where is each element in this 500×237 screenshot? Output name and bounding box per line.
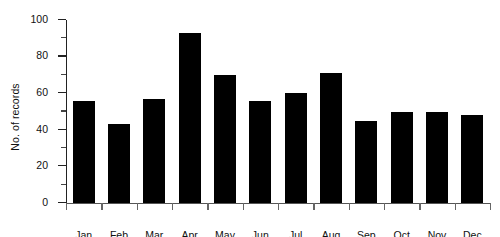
x-axis-tick <box>419 203 420 210</box>
top-cutoff-text-artifact: · · · · · · <box>0 0 500 7</box>
x-axis-tick <box>278 203 279 210</box>
x-axis-tick <box>384 203 385 210</box>
x-axis-tick-label: Jul <box>289 229 302 237</box>
bar <box>73 101 95 203</box>
y-axis-tick-label: 60 <box>36 86 48 98</box>
y-axis-tick-major: 20 <box>58 165 66 166</box>
y-axis-tick-major: 40 <box>58 129 66 130</box>
x-axis-tick <box>172 203 173 210</box>
x-axis-tick-label: Mar <box>145 229 163 237</box>
x-axis-tick <box>101 203 102 210</box>
bar <box>426 112 448 204</box>
x-axis-tick <box>313 203 314 210</box>
top-cutoff-text: · · · · · · <box>96 0 140 3</box>
plot-area: 020406080100JanFebMarAprMayJunJulAugSepO… <box>66 20 490 203</box>
x-axis-tick-label: Feb <box>110 229 128 237</box>
y-axis-tick-label: 80 <box>36 49 48 61</box>
y-axis-tick-label: 40 <box>36 123 48 135</box>
x-axis-tick <box>455 203 456 210</box>
y-axis-tick-minor <box>61 74 66 75</box>
y-axis-title: No. of records <box>9 62 25 172</box>
bar <box>143 99 165 203</box>
bar <box>214 75 236 203</box>
bar <box>461 115 483 203</box>
x-axis-tick-label: Oct <box>393 229 409 237</box>
x-axis-tick-label: Jun <box>252 229 269 237</box>
x-axis-tick <box>490 203 491 210</box>
x-axis-tick-label: Sep <box>357 229 376 237</box>
x-axis-tick-label: May <box>215 229 235 237</box>
y-axis-tick-label: 100 <box>30 13 48 25</box>
y-axis-tick-minor <box>61 184 66 185</box>
x-axis-tick <box>66 203 67 210</box>
x-axis-tick-label: Nov <box>428 229 447 237</box>
bar <box>108 124 130 203</box>
bar <box>179 33 201 203</box>
x-axis-tick <box>207 203 208 210</box>
y-axis-tick-major: 100 <box>58 19 66 20</box>
x-axis-tick-label: Apr <box>181 229 197 237</box>
bar-chart-figure: · · · · · · No. of records 020406080100J… <box>0 0 500 237</box>
y-axis-tick-minor <box>61 110 66 111</box>
x-axis-tick <box>243 203 244 210</box>
y-axis-tick-label: 20 <box>36 159 48 171</box>
y-axis-tick-minor <box>61 37 66 38</box>
bar <box>285 93 307 203</box>
x-axis-tick <box>349 203 350 210</box>
x-axis-tick-label: Jan <box>75 229 92 237</box>
x-axis-tick-label: Dec <box>463 229 482 237</box>
y-axis-tick-major: 80 <box>58 55 66 56</box>
bar <box>391 112 413 204</box>
y-axis-tick-major: 60 <box>58 92 66 93</box>
y-axis-tick-label: 0 <box>42 196 48 208</box>
bar <box>320 73 342 203</box>
x-axis-tick-label: Aug <box>322 229 341 237</box>
y-axis-tick-minor <box>61 147 66 148</box>
bar <box>249 101 271 203</box>
y-axis-tick-major: 0 <box>58 202 66 203</box>
x-axis-tick <box>137 203 138 210</box>
bar <box>355 121 377 203</box>
